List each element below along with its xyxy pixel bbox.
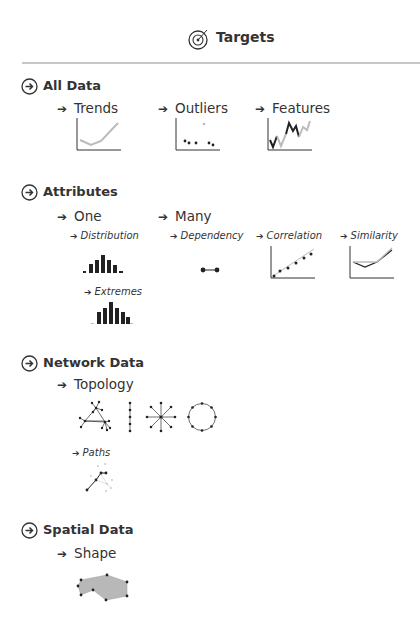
- arrow-icon: ➔: [255, 102, 265, 116]
- arrow-icon: ➔: [57, 547, 67, 561]
- star-topology-icon: [146, 402, 176, 436]
- path-graph-icon: [85, 464, 115, 498]
- item-topology[interactable]: ➔Topology: [57, 376, 134, 392]
- item-features[interactable]: ➔Features: [255, 100, 330, 116]
- dependency-link-icon: [200, 259, 220, 278]
- section-title: Network Data: [43, 355, 144, 370]
- item-shape[interactable]: ➔Shape: [57, 545, 116, 561]
- item-correlation[interactable]: ➔Correlation: [256, 230, 322, 241]
- item-trends[interactable]: ➔Trends: [57, 100, 118, 116]
- arrow-circle-icon: [21, 78, 38, 95]
- distribution-histogram-icon: [83, 253, 123, 279]
- item-extremes[interactable]: ➔Extremes: [84, 286, 142, 297]
- item-many[interactable]: ➔Many: [158, 208, 212, 224]
- arrow-icon: ➔: [170, 231, 178, 241]
- arrow-icon: ➔: [158, 102, 168, 116]
- trend-line-chart-icon: [76, 118, 122, 156]
- arrow-icon: ➔: [84, 287, 92, 297]
- item-similarity[interactable]: ➔Similarity: [340, 230, 398, 241]
- page-title: Targets: [216, 29, 275, 45]
- network-graph-icon: [80, 402, 114, 436]
- arrow-icon: ➔: [72, 448, 80, 458]
- arrow-icon: ➔: [256, 231, 264, 241]
- arrow-icon: ➔: [57, 378, 67, 392]
- section-title: Attributes: [43, 184, 118, 199]
- arrow-icon: ➔: [57, 210, 67, 224]
- item-dependency[interactable]: ➔Dependency: [170, 230, 244, 241]
- arrow-circle-icon: [21, 184, 38, 201]
- arrow-icon: ➔: [70, 231, 78, 241]
- extremes-histogram-icon: [91, 300, 131, 330]
- section-title: Spatial Data: [43, 522, 133, 537]
- arrow-circle-icon: [21, 522, 38, 539]
- arrow-icon: ➔: [57, 102, 67, 116]
- target-icon: [188, 28, 210, 50]
- section-title: All Data: [43, 78, 101, 93]
- item-paths[interactable]: ➔Paths: [72, 447, 110, 458]
- item-outliers[interactable]: ➔Outliers: [158, 100, 228, 116]
- polygon-shape-icon: [76, 568, 132, 608]
- arrow-circle-icon: [21, 355, 38, 372]
- correlation-scatter-icon: [270, 246, 316, 284]
- arrow-icon: ➔: [158, 210, 168, 224]
- item-distribution[interactable]: ➔Distribution: [70, 230, 139, 241]
- line-topology-icon: [127, 402, 133, 436]
- similarity-line-icon: [349, 246, 395, 284]
- header-divider: [22, 62, 420, 64]
- item-one[interactable]: ➔One: [57, 208, 102, 224]
- arrow-icon: ➔: [340, 231, 348, 241]
- ring-topology-icon: [187, 402, 217, 436]
- features-line-icon: [267, 118, 313, 156]
- outlier-scatter-icon: [175, 118, 221, 156]
